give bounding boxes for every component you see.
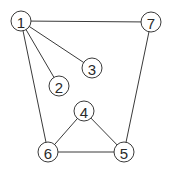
edge-1-7 <box>21 21 151 22</box>
node-4: 4 <box>74 101 94 121</box>
node-2: 2 <box>49 76 69 96</box>
graph-diagram: 1234567 <box>0 0 170 177</box>
edge-7-5 <box>124 22 151 152</box>
edge-1-2 <box>21 21 59 86</box>
edge-1-3 <box>21 21 92 68</box>
edges <box>21 21 151 152</box>
nodes: 1234567 <box>11 11 161 162</box>
node-label: 2 <box>55 79 63 96</box>
node-1: 1 <box>11 11 31 31</box>
edge-1-6 <box>21 21 48 152</box>
node-3: 3 <box>82 58 102 78</box>
node-label: 7 <box>147 15 155 32</box>
node-5: 5 <box>114 142 134 162</box>
node-label: 1 <box>17 14 25 31</box>
node-label: 5 <box>120 145 128 162</box>
node-label: 6 <box>44 145 52 162</box>
node-label: 4 <box>80 104 88 121</box>
node-label: 3 <box>88 61 96 78</box>
node-6: 6 <box>38 142 58 162</box>
node-7: 7 <box>141 12 161 32</box>
